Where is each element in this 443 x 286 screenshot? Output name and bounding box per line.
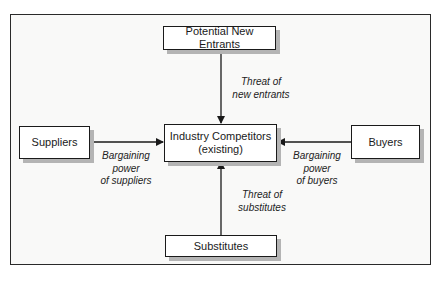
label-bargaining-power-suppliers: Bargaining power of suppliers xyxy=(93,150,159,188)
label-threat-substitutes: Threat of substitutes xyxy=(231,189,293,214)
node-industry-competitors: Industry Competitors (existing) xyxy=(164,124,277,162)
label-line: new entrants xyxy=(226,89,296,102)
label-line: Threat of xyxy=(231,189,293,202)
label-line: substitutes xyxy=(231,202,293,215)
node-suppliers: Suppliers xyxy=(19,126,90,159)
node-buyers: Buyers xyxy=(351,125,420,159)
node-label: Substitutes xyxy=(194,240,248,253)
node-label: Industry Competitors xyxy=(170,130,271,143)
label-line: Threat of xyxy=(226,76,296,89)
node-potential-new-entrants: Potential New Entrants xyxy=(163,26,276,50)
label-line: of suppliers xyxy=(93,175,159,188)
label-line: power xyxy=(287,163,347,176)
node-label: Potential New Entrants xyxy=(164,25,275,51)
label-threat-new-entrants: Threat of new entrants xyxy=(226,76,296,101)
node-label: Suppliers xyxy=(32,136,78,149)
node-substitutes: Substitutes xyxy=(165,235,277,257)
label-line: of buyers xyxy=(287,175,347,188)
label-bargaining-power-buyers: Bargaining power of buyers xyxy=(287,150,347,188)
label-line: Bargaining xyxy=(93,150,159,163)
node-label: Buyers xyxy=(368,136,402,149)
node-sublabel: (existing) xyxy=(198,143,243,156)
label-line: power xyxy=(93,163,159,176)
label-line: Bargaining xyxy=(287,150,347,163)
